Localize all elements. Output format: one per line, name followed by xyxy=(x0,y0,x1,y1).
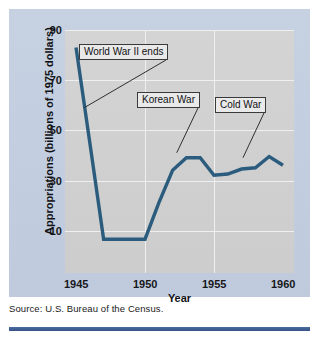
y-axis-title: Appropriations (billions of 1975 dollars… xyxy=(43,35,55,235)
data-series-line xyxy=(76,48,283,240)
series-svg xyxy=(65,30,294,273)
x-tick-1945: 1945 xyxy=(51,277,101,291)
annotation-cold-war: Cold War xyxy=(215,97,266,113)
x-tick-1960: 1960 xyxy=(258,277,308,291)
plot-area: World War II ends Korean War Cold War xyxy=(65,30,294,273)
annotation-world-war-ii-ends: World War II ends xyxy=(79,44,168,60)
x-tick-1955: 1955 xyxy=(189,277,239,291)
x-tick-1950: 1950 xyxy=(120,277,170,291)
annotation-korean-war: Korean War xyxy=(137,92,200,108)
source-note: Source: U.S. Bureau of the Census. xyxy=(9,303,163,314)
figure-top-margin xyxy=(0,0,319,9)
x-axis-ticks: 1945 1950 1955 1960 xyxy=(65,277,294,293)
figure-container: 90 70 50 30 10 Appropriations (billions … xyxy=(0,0,319,338)
bottom-divider-rule xyxy=(9,327,310,331)
chart-panel: 90 70 50 30 10 Appropriations (billions … xyxy=(9,9,310,297)
